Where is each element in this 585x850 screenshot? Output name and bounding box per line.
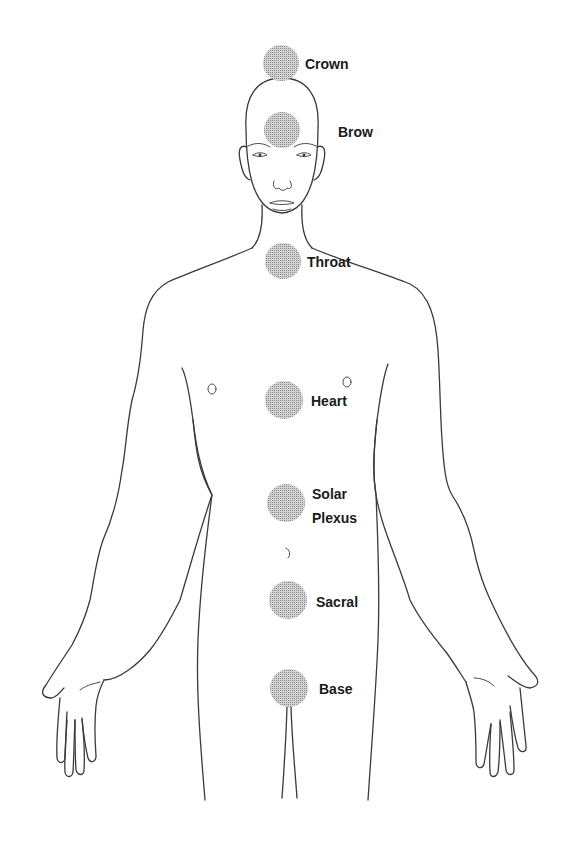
- chakra-throat-label: Throat: [307, 254, 351, 270]
- chakra-heart-circle: [265, 381, 303, 419]
- chakra-base-label: Base: [319, 681, 353, 697]
- chakra-base: Base: [270, 669, 353, 707]
- chakra-diagram: Crown Brow Throat Heart Solar Plexus Sac…: [0, 0, 585, 850]
- chakra-brow-label: Brow: [338, 124, 373, 140]
- chakra-solar-plexus: Solar Plexus: [267, 484, 357, 526]
- chakra-sacral-label: Sacral: [316, 594, 358, 610]
- chakra-brow-circle: [264, 112, 300, 148]
- chakra-solar-plexus-label-line2: Plexus: [312, 510, 357, 526]
- chakra-sacral-circle: [269, 581, 307, 619]
- chakra-solar-plexus-circle: [267, 484, 305, 522]
- chakra-solar-plexus-label-line1: Solar: [312, 486, 348, 502]
- chakra-throat-circle: [265, 243, 301, 279]
- chakra-sacral: Sacral: [269, 581, 358, 619]
- chakra-crown: Crown: [263, 45, 349, 81]
- chakra-heart: Heart: [265, 381, 347, 419]
- chakra-crown-label: Crown: [305, 56, 349, 72]
- chakra-throat: Throat: [265, 243, 351, 279]
- chakra-crown-circle: [263, 45, 299, 81]
- chakra-base-circle: [270, 669, 308, 707]
- chakra-heart-label: Heart: [311, 393, 347, 409]
